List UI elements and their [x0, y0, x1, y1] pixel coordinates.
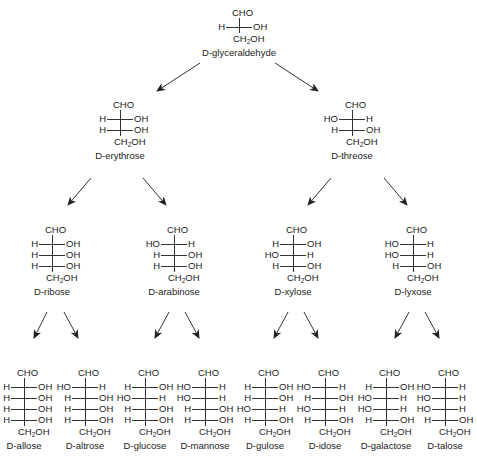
left-substituent: H: [153, 250, 160, 260]
left-substituent: H: [3, 393, 10, 403]
right-substituent: OH: [400, 382, 414, 392]
right-substituent: H: [219, 382, 226, 392]
stereocenter-bond: [312, 420, 338, 421]
hydroxymethyl-group: CH2OH: [199, 427, 231, 439]
aldehyde-group: CHO: [17, 368, 38, 378]
molecule-name: D-glyceraldehyde: [202, 48, 276, 58]
right-substituent: OH: [38, 393, 52, 403]
hydroxymethyl-group: CH2OH: [168, 273, 200, 285]
arrow-xylose-to-gulose: [274, 312, 288, 338]
carbon-backbone: [386, 378, 387, 426]
hydroxymethyl-group: CH2OH: [46, 273, 78, 285]
left-substituent: H: [184, 404, 191, 414]
stereocenter-bond: [11, 409, 37, 410]
carbon-backbone: [325, 378, 326, 426]
left-substituent: H: [99, 125, 106, 135]
carbon-backbone: [145, 378, 146, 426]
right-substituent: H: [339, 404, 346, 414]
stereocenter-bond: [72, 409, 98, 410]
stereocenter-bond: [192, 387, 218, 388]
left-substituent: HO: [117, 393, 131, 403]
left-substituent: HO: [385, 239, 399, 249]
right-substituent: OH: [339, 415, 353, 425]
left-substituent: HO: [237, 404, 251, 414]
aldehyde-group: CHO: [379, 368, 400, 378]
right-substituent: OH: [99, 393, 113, 403]
aldehyde-group: CHO: [113, 100, 134, 110]
molecule-name: D-ribose: [34, 287, 70, 297]
stereocenter-bond: [252, 409, 278, 410]
stereocenter-bond: [432, 387, 458, 388]
aldehyde-group: CHO: [406, 225, 427, 235]
stereocenter-bond: [339, 130, 365, 131]
right-substituent: OH: [279, 382, 293, 392]
right-substituent: OH: [279, 415, 293, 425]
left-substituent: H: [3, 415, 10, 425]
arrow-erythrose-to-arabinose: [143, 178, 166, 205]
right-substituent: OH: [307, 261, 321, 271]
right-substituent: H: [99, 382, 106, 392]
stereocenter-bond: [72, 387, 98, 388]
left-substituent: H: [64, 404, 71, 414]
stereocenter-bond: [11, 398, 37, 399]
stereocenter-bond: [280, 255, 306, 256]
stereocenter-bond: [72, 398, 98, 399]
left-substituent: H: [424, 415, 431, 425]
left-substituent: HO: [297, 404, 311, 414]
right-substituent: OH: [219, 404, 233, 414]
right-substituent: OH: [159, 415, 173, 425]
arrow-threose-to-lyxose: [384, 178, 407, 205]
left-substituent: HO: [177, 382, 191, 392]
stereocenter-bond: [432, 409, 458, 410]
arrow-ribose-to-altrose: [64, 312, 78, 338]
left-substituent: H: [3, 382, 10, 392]
molecule-name: D-gulose: [246, 441, 284, 451]
molecule-name: D-arabinose: [148, 287, 200, 297]
left-substituent: H: [244, 393, 251, 403]
right-substituent: H: [459, 393, 466, 403]
stereocenter-bond: [373, 420, 399, 421]
right-substituent: OH: [427, 261, 441, 271]
right-substituent: H: [159, 393, 166, 403]
aldehyde-group: CHO: [438, 368, 459, 378]
hydroxymethyl-group: CH2OH: [259, 427, 291, 439]
molecule-name: D-mannose: [180, 441, 229, 451]
stereocenter-bond: [161, 266, 187, 267]
stereocenter-bond: [39, 255, 65, 256]
right-substituent: OH: [188, 250, 202, 260]
aldehyde-group: CHO: [198, 368, 219, 378]
molecule-name: D-erythrose: [95, 151, 145, 161]
stereocenter-bond: [280, 266, 306, 267]
right-substituent: OH: [99, 415, 113, 425]
right-substituent: H: [339, 382, 346, 392]
carbon-backbone: [205, 378, 206, 426]
right-substituent: OH: [279, 393, 293, 403]
aldose-family-diagram: CHO CH2OH D-glyceraldehyde HOH CHO CH2OH…: [0, 0, 477, 469]
stereocenter-bond: [312, 409, 338, 410]
carbon-backbone: [85, 378, 86, 426]
left-substituent: HO: [358, 404, 372, 414]
left-substituent: HO: [358, 393, 372, 403]
left-substituent: HO: [57, 382, 71, 392]
hydroxymethyl-group: CH2OH: [233, 34, 265, 46]
stereocenter-bond: [312, 387, 338, 388]
left-substituent: H: [124, 382, 131, 392]
left-substituent: H: [64, 415, 71, 425]
arrow-arabinose-to-glucose: [155, 312, 169, 338]
right-substituent: OH: [134, 114, 148, 124]
hydroxymethyl-group: CH2OH: [114, 137, 146, 149]
molecule-name: D-xylose: [275, 287, 312, 297]
aldehyde-group: CHO: [286, 225, 307, 235]
hydroxymethyl-group: CH2OH: [439, 427, 471, 439]
left-substituent: H: [218, 22, 225, 32]
arrow-glyceraldehyde-to-erythrose: [157, 63, 200, 91]
hydroxymethyl-group: CH2OH: [139, 427, 171, 439]
right-substituent: H: [400, 404, 407, 414]
left-substituent: H: [31, 250, 38, 260]
stereocenter-bond: [373, 409, 399, 410]
stereocenter-bond: [11, 387, 37, 388]
left-substituent: H: [365, 382, 372, 392]
right-substituent: OH: [219, 415, 233, 425]
stereocenter-bond: [339, 119, 365, 120]
stereocenter-bond: [192, 398, 218, 399]
